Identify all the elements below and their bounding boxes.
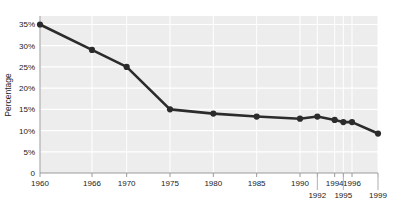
y-axis-tick-label: 25% bbox=[19, 63, 35, 72]
y-axis-tick-label: 0 bbox=[31, 169, 36, 178]
y-axis-tick-label: 20% bbox=[19, 84, 35, 93]
y-axis-tick-label: 15% bbox=[19, 105, 35, 114]
y-axis-tick-label: 30% bbox=[19, 42, 35, 51]
y-axis-title: Percentage bbox=[3, 73, 13, 117]
x-axis-tick-label: 1970 bbox=[118, 179, 136, 188]
x-axis-tick-label: 1990 bbox=[291, 179, 309, 188]
x-axis-tick-label: 1960 bbox=[31, 179, 49, 188]
x-axis-tick-label: 1996 bbox=[343, 179, 361, 188]
data-point-marker bbox=[167, 106, 173, 112]
y-axis-tick-label: 10% bbox=[19, 127, 35, 136]
data-point-marker bbox=[37, 21, 43, 27]
data-point-marker bbox=[254, 113, 260, 119]
x-axis-tick-label: 1980 bbox=[204, 179, 222, 188]
data-point-marker bbox=[89, 47, 95, 53]
data-point-marker bbox=[124, 64, 130, 70]
x-axis-tick-label: 1999 bbox=[369, 191, 387, 200]
data-point-marker bbox=[210, 110, 216, 116]
x-axis-tick-label: 1985 bbox=[248, 179, 266, 188]
y-axis-tick-label: 35% bbox=[19, 20, 35, 29]
chart-figure: 05%10%15%20%25%30%35% 196019661970197519… bbox=[0, 0, 408, 218]
data-point-marker bbox=[349, 119, 355, 125]
y-axis-tick-label: 5% bbox=[23, 148, 35, 157]
x-axis-tick-label: 1992 bbox=[308, 191, 326, 200]
data-point-marker bbox=[340, 119, 346, 125]
data-point-marker bbox=[375, 130, 381, 136]
data-point-marker bbox=[314, 113, 320, 119]
data-point-marker bbox=[297, 116, 303, 122]
x-axis-tick-label: 1966 bbox=[83, 179, 101, 188]
x-axis-tick-label: 1975 bbox=[161, 179, 179, 188]
x-axis-tick-label: 1995 bbox=[334, 191, 352, 200]
data-point-marker bbox=[332, 117, 338, 123]
x-axis-tick-label: 1994 bbox=[326, 179, 344, 188]
line-chart: 05%10%15%20%25%30%35% 196019661970197519… bbox=[0, 0, 408, 218]
plot-area-background bbox=[40, 16, 378, 173]
